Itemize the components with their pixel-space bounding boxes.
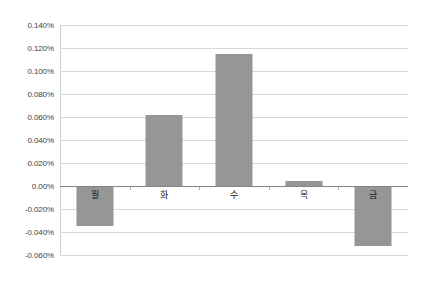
x-category-label: 월	[65, 188, 125, 201]
x-category-label: 목	[274, 188, 334, 201]
x-category-label: 화	[134, 188, 194, 201]
y-tick-label: 0.060%	[0, 113, 54, 122]
y-tick-label: 0.100%	[0, 67, 54, 76]
y-tick-label: 0.120%	[0, 44, 54, 53]
bar-slot-fri: 금	[338, 25, 408, 255]
bar-tue[interactable]	[146, 115, 183, 186]
y-tick-label: -0.060%	[0, 251, 54, 260]
y-tick-label: 0.140%	[0, 21, 54, 30]
zero-axis-line	[60, 186, 408, 187]
y-tick-label: 0.020%	[0, 159, 54, 168]
y-tick-label: -0.040%	[0, 228, 54, 237]
y-tick-label: -0.020%	[0, 205, 54, 214]
gridline	[60, 255, 408, 256]
plot-area: 월 화 수 목 금	[60, 25, 408, 255]
bar-slot-tue: 화	[130, 25, 200, 255]
x-category-label: 금	[343, 188, 403, 201]
x-category-label: 수	[204, 188, 264, 201]
y-tick-label: 0.00%	[0, 182, 54, 191]
bar-chart: 0.140% 0.120% 0.100% 0.080% 0.060% 0.040…	[0, 0, 428, 281]
bar-slot-wed: 수	[199, 25, 269, 255]
y-tick-label: 0.040%	[0, 136, 54, 145]
bar-series: 월 화 수 목 금	[60, 25, 408, 255]
y-tick-label: 0.080%	[0, 90, 54, 99]
bar-slot-thu: 목	[269, 25, 339, 255]
bar-slot-mon: 월	[60, 25, 130, 255]
bar-wed[interactable]	[215, 54, 252, 186]
